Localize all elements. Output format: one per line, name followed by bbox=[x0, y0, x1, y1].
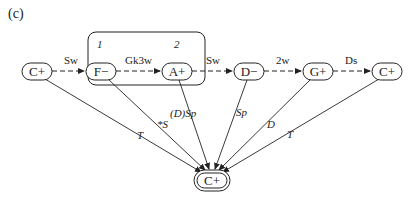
edge-label: Gk3w bbox=[125, 54, 152, 66]
edge-label: (D)Sp bbox=[170, 107, 197, 120]
edge-label: T bbox=[137, 129, 144, 141]
node-number: 1 bbox=[97, 38, 103, 50]
node-g-plus: G+ bbox=[303, 63, 333, 80]
edge-label: Sw bbox=[206, 54, 220, 66]
node-a-plus: A+ bbox=[162, 63, 192, 80]
convergent-edges bbox=[45, 79, 379, 172]
svg-text:F−: F− bbox=[94, 64, 109, 79]
edge-label: T bbox=[287, 128, 294, 140]
node-c-start: C+ bbox=[22, 63, 52, 80]
edge-label: *S bbox=[157, 118, 169, 130]
node-c-target: C+ bbox=[194, 170, 230, 191]
node-number: 2 bbox=[174, 38, 180, 50]
svg-text:G+: G+ bbox=[310, 64, 327, 79]
svg-text:C+: C+ bbox=[204, 173, 220, 188]
edge-label: Ds bbox=[345, 54, 357, 66]
svg-text:A+: A+ bbox=[169, 64, 186, 79]
edge-label: 2w bbox=[276, 54, 290, 66]
edge-label: Sw bbox=[64, 54, 78, 66]
edge-label: Sp bbox=[236, 106, 248, 118]
node-d-minus: D− bbox=[234, 63, 264, 80]
diagram-canvas: Sw Gk3w Sw 2w Ds T *S (D)Sp Sp D T 1 2 C… bbox=[0, 0, 419, 198]
svg-text:D−: D− bbox=[241, 64, 258, 79]
node-f-minus: F− bbox=[86, 63, 116, 80]
node-c-end: C+ bbox=[372, 63, 402, 80]
svg-text:C+: C+ bbox=[29, 64, 45, 79]
edge-label: D bbox=[266, 118, 275, 130]
svg-text:C+: C+ bbox=[379, 64, 395, 79]
